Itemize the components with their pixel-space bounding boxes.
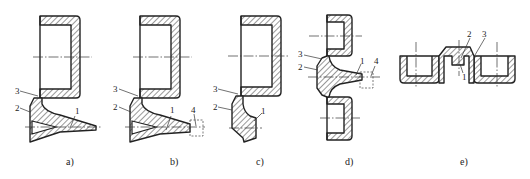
panel-b: 3 2 1 4 b) bbox=[113, 16, 205, 168]
callout-2: 2 bbox=[15, 103, 20, 113]
panel-a: 3 2 1 a) bbox=[15, 16, 102, 168]
caption-b: b) bbox=[170, 156, 178, 168]
callout-1: 1 bbox=[170, 105, 175, 115]
callout-1: 1 bbox=[261, 106, 266, 116]
panel-c: 3 2 1 c) bbox=[213, 16, 290, 168]
lower-housing bbox=[327, 97, 352, 140]
callout-2: 2 bbox=[113, 102, 118, 112]
callout-1: 1 bbox=[462, 72, 467, 82]
seal-body bbox=[30, 98, 96, 142]
callout-3: 3 bbox=[213, 84, 218, 94]
seal-body bbox=[130, 98, 190, 142]
right-housing bbox=[474, 56, 515, 83]
callout-3: 3 bbox=[113, 84, 118, 94]
caption-e: e) bbox=[460, 156, 468, 168]
callout-3: 3 bbox=[298, 49, 303, 59]
upper-housing bbox=[327, 15, 352, 56]
callout-3: 3 bbox=[482, 29, 487, 39]
seal-body bbox=[317, 56, 362, 97]
callout-2: 2 bbox=[298, 62, 303, 72]
seal-body bbox=[232, 96, 256, 142]
callout-1: 1 bbox=[75, 106, 80, 116]
technical-diagram: 3 2 1 a) 3 2 1 4 b) 3 2 1 c) bbox=[0, 0, 530, 179]
callout-1: 1 bbox=[360, 56, 365, 66]
left-housing bbox=[400, 56, 439, 83]
callout-2: 2 bbox=[213, 102, 218, 112]
shaft-outline-4 bbox=[190, 120, 203, 136]
panel-e: 2 3 1 e) bbox=[400, 29, 515, 168]
callout-4: 4 bbox=[191, 105, 196, 115]
panel-d: 3 2 1 4 d) bbox=[298, 15, 382, 168]
caption-c: c) bbox=[256, 156, 264, 168]
caption-a: a) bbox=[66, 156, 74, 168]
callout-2: 2 bbox=[467, 29, 472, 39]
caption-d: d) bbox=[345, 156, 353, 168]
callout-4: 4 bbox=[374, 56, 379, 66]
seal-body bbox=[439, 47, 474, 83]
callout-3: 3 bbox=[15, 86, 20, 96]
